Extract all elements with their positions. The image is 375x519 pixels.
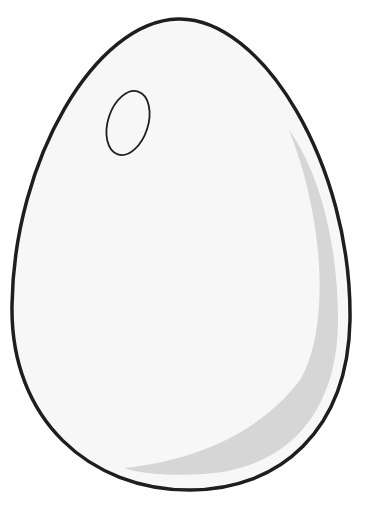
egg-illustration	[0, 0, 375, 519]
egg-svg	[0, 0, 375, 519]
